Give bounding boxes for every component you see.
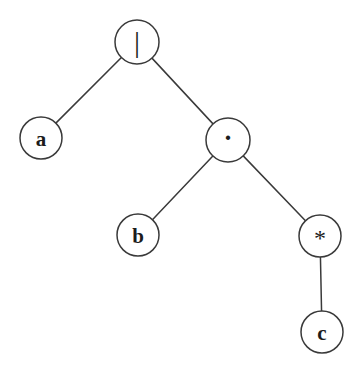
tree-node-symbol-c: c	[301, 311, 343, 353]
node-label-kleene-star: *	[314, 225, 326, 251]
tree-node-symbol-a: a	[20, 117, 62, 159]
node-label-symbol-b: b	[132, 224, 144, 248]
node-label-concatenation: ·	[223, 123, 232, 153]
tree-node-alternation: |	[115, 20, 159, 64]
syntax-tree-figure: |a·b*c	[0, 0, 360, 368]
tree-node-kleene-star: *	[299, 215, 341, 257]
node-label-symbol-a: a	[36, 127, 47, 151]
node-label-symbol-c: c	[317, 321, 326, 345]
figure-background	[0, 0, 360, 368]
tree-node-concatenation: ·	[206, 118, 250, 162]
node-label-alternation: |	[134, 25, 140, 58]
tree-node-symbol-b: b	[117, 214, 159, 256]
